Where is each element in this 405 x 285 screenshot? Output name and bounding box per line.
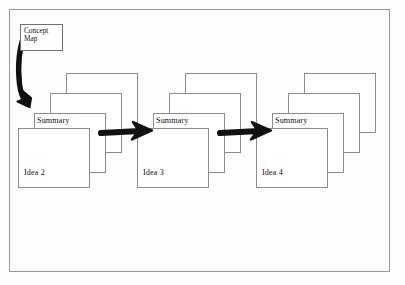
idea-label: Idea 2 [24, 168, 45, 177]
card-idea[interactable] [137, 128, 209, 188]
stack-idea-4[interactable]: Summary Idea 4 [256, 73, 376, 188]
card-idea[interactable] [256, 128, 328, 188]
diagram-canvas: Concept Map Summary Idea 2 Summary Idea … [0, 0, 405, 285]
concept-map-box[interactable]: Concept Map [20, 24, 63, 51]
summary-label: Summary [37, 116, 70, 125]
concept-map-label-line2: Map [24, 35, 62, 43]
card-idea[interactable] [18, 128, 90, 188]
stack-idea-2[interactable]: Summary Idea 2 [18, 73, 138, 188]
idea-label: Idea 4 [262, 168, 283, 177]
stack-idea-3[interactable]: Summary Idea 3 [137, 73, 257, 188]
summary-label: Summary [275, 116, 308, 125]
summary-label: Summary [156, 116, 189, 125]
idea-label: Idea 3 [143, 168, 164, 177]
